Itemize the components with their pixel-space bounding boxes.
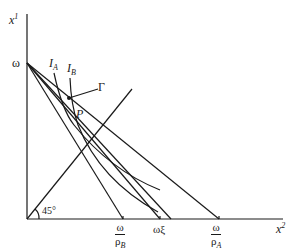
endowment-label: ω [12, 57, 20, 69]
y-axis-label: x1 [9, 13, 18, 26]
gamma-pointer [69, 89, 98, 98]
intercept-omega-xi: ωξ [153, 224, 165, 235]
budget-line-rhoB [27, 63, 123, 219]
intercept-omega-rhoB: ω ρB [115, 222, 125, 250]
angle-arc [35, 209, 39, 219]
budget-line-rhoA [27, 63, 219, 219]
intercept-omega-rhoA: ω ρA [211, 222, 221, 250]
angle-label: 45° [42, 206, 56, 216]
x-axis-label: x2 [276, 222, 285, 235]
curve-label-IB: IB [67, 62, 76, 77]
gamma-label: Γ [98, 81, 105, 93]
gamma-point [67, 96, 71, 100]
exchange-diagram: x1 x2 ω 45° IA IB Γ P ω ρB ωξ ω ρA [0, 0, 301, 251]
point-P-label: P [76, 108, 83, 120]
curve-label-IA: IA [49, 57, 58, 72]
budget-line-xi [27, 63, 160, 219]
indifference-curve-IB [70, 78, 158, 212]
